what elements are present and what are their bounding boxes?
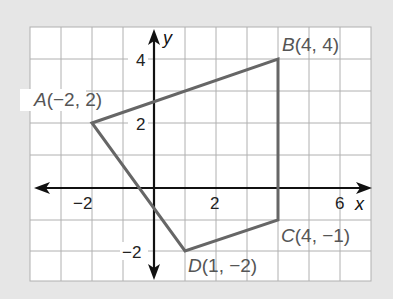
x-tick-2: 2 <box>210 194 219 213</box>
y-tick-neg2: −2 <box>122 243 141 262</box>
y-axis-label: y <box>161 28 173 48</box>
x-tick-neg2: −2 <box>73 194 92 213</box>
point-label-D: D(1, −2) <box>188 255 257 276</box>
y-tick-4: 4 <box>136 51 145 70</box>
x-axis-label: x <box>354 194 365 214</box>
point-label-A: A(−2, 2) <box>33 89 102 110</box>
point-label-C: C(4, −1) <box>281 225 350 246</box>
point-label-B: B(4, 4) <box>282 34 339 55</box>
x-tick-6: 6 <box>335 194 344 213</box>
y-tick-2: 2 <box>136 115 145 134</box>
coordinate-plane: 4 2 −2 −2 2 6 y x A(−2, 2) B(4, 4) C(4, … <box>0 0 393 299</box>
